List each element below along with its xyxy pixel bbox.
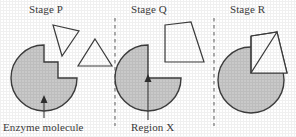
diagram-canvas: Stage P Stage Q Stage R Enzyme molecule …: [0, 0, 296, 137]
region-x-caption: Region X: [131, 121, 174, 133]
stage-r-group: [218, 32, 287, 113]
stage-q-group: [115, 22, 204, 120]
stage-p-title: Stage P: [29, 3, 63, 15]
enzyme-stages-diagram: [0, 0, 296, 137]
stage-p-group: [11, 25, 112, 118]
enzyme-molecule-caption: Enzyme molecule: [3, 121, 84, 133]
stage-p-substrate-triangle-1: [53, 25, 79, 56]
stage-q-title: Stage Q: [131, 3, 167, 15]
stage-q-substrate-quadrilateral: [165, 22, 204, 62]
stage-r-title: Stage R: [230, 3, 265, 15]
stage-p-substrate-triangle-2: [78, 39, 112, 66]
